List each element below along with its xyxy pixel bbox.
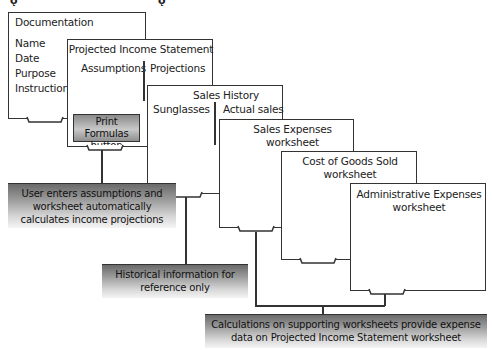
callout-history-line2: reference only	[102, 281, 248, 294]
admin-expenses-sheet: Administrative Expenses worksheet	[350, 183, 486, 291]
callout-supporting-line2: data on Projected Income Statement works…	[205, 331, 487, 344]
admin-expenses-line2: worksheet	[351, 201, 487, 214]
figure-title-fragment: ǫ	[158, 0, 166, 7]
doc-item-instructions: Instructions	[15, 82, 74, 95]
doc-item-purpose: Purpose	[15, 67, 56, 80]
assumptions-label: Assumptions	[81, 62, 146, 75]
sales-expenses-line2: worksheet	[225, 136, 360, 149]
callout-income-line2: worksheet automatically	[8, 200, 176, 213]
figure-title-fragment: ǫ	[10, 0, 18, 7]
actual-sales-label: Actual sales	[223, 103, 284, 116]
column-divider	[143, 61, 145, 101]
doc-item-date: Date	[15, 52, 39, 65]
connector-history	[185, 197, 187, 265]
sales-expenses-line1: Sales Expenses	[225, 123, 360, 136]
cogs-line1: Cost of Goods Sold	[282, 155, 418, 168]
sunglasses-label: Sunglasses	[153, 103, 210, 116]
connector-sales-exp	[255, 232, 257, 306]
admin-expenses-line1: Administrative Expenses	[351, 188, 487, 201]
column-divider	[214, 102, 216, 145]
income-statement-title: Projected Income Statement	[68, 43, 214, 56]
print-formulas-label-1: Print Formulas	[74, 116, 139, 140]
doc-item-name: Name	[15, 37, 45, 50]
documentation-title: Documentation	[15, 16, 93, 29]
cogs-line2: worksheet	[282, 168, 418, 181]
projections-label: Projections	[150, 62, 205, 75]
callout-income-line3: calculates income projections	[8, 213, 176, 226]
sales-expenses-tab	[238, 226, 278, 234]
callout-supporting-line1: Calculations on supporting worksheets pr…	[205, 318, 487, 331]
cogs-tab	[300, 258, 340, 266]
callout-supporting: Calculations on supporting worksheets pr…	[205, 314, 487, 348]
documentation-tab	[27, 117, 67, 125]
callout-history: Historical information for reference onl…	[102, 264, 248, 298]
connector-bottom-h	[255, 305, 385, 307]
callout-income-line1: User enters assumptions and	[8, 187, 176, 200]
admin-expenses-tab	[369, 289, 409, 297]
connector-income	[101, 150, 103, 184]
sales-history-title: Sales History	[158, 89, 294, 102]
callout-income: User enters assumptions and worksheet au…	[8, 183, 176, 228]
income-statement-tab	[87, 145, 127, 153]
print-formulas-button[interactable]: Print Formulas button	[73, 114, 140, 142]
callout-history-line1: Historical information for	[102, 268, 248, 281]
